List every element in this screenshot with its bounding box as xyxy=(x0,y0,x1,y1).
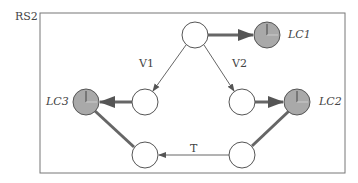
state-node-bottom-right xyxy=(229,142,255,168)
clock-icon-lc2 xyxy=(284,89,310,115)
state-node-bottom-left xyxy=(132,142,158,168)
clock-icon-lc1 xyxy=(254,22,280,48)
edge-bottomright-lc2 xyxy=(252,111,289,146)
clock-label-lc3: LC3 xyxy=(46,95,69,108)
edge-v2 xyxy=(204,45,234,91)
edge-v1 xyxy=(153,45,186,91)
diagram-title: RS2 xyxy=(15,10,38,23)
clock-icon-lc3 xyxy=(73,89,99,115)
edge-label-v2: V2 xyxy=(232,57,247,70)
state-node-v1 xyxy=(132,89,158,115)
edge-label-v1: V1 xyxy=(139,57,154,70)
clock-label-lc1: LC1 xyxy=(288,28,311,41)
clock-label-lc2: LC2 xyxy=(319,95,342,108)
state-node-top xyxy=(182,22,208,48)
edge-bottomleft-lc3 xyxy=(95,111,134,147)
state-node-v2 xyxy=(229,89,255,115)
edge-label-t: T xyxy=(190,142,197,155)
